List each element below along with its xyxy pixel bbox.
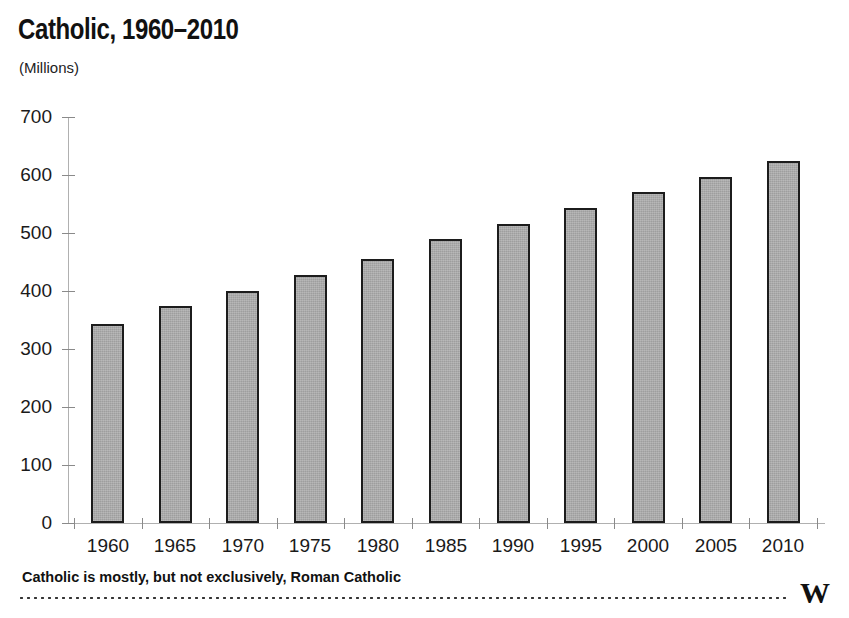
y-axis-line (68, 117, 69, 524)
y-axis-tick-label: 400 (0, 281, 52, 300)
x-axis-tick (277, 518, 278, 529)
publisher-logo: W (800, 578, 830, 608)
x-axis-tick (547, 518, 548, 529)
bar-1980[interactable] (361, 259, 394, 523)
y-axis-tick-label: 200 (0, 397, 52, 416)
bar-2000[interactable] (632, 192, 665, 523)
y-axis-tick-label: 300 (0, 339, 52, 358)
y-axis-tick (62, 175, 75, 176)
x-axis-tick (74, 518, 75, 529)
x-axis-tick (209, 518, 210, 529)
y-axis-tick-label: 600 (0, 165, 52, 184)
x-axis-tick (682, 518, 683, 529)
x-axis-line (68, 523, 825, 524)
bar-1985[interactable] (429, 239, 462, 523)
bar-1970[interactable] (226, 291, 259, 523)
y-axis-tick (62, 407, 75, 408)
y-axis-tick (62, 465, 75, 466)
chart-page: Catholic, 1960–2010 (Millions) 010020030… (0, 0, 849, 618)
footer-dotted-divider (18, 596, 788, 600)
chart-footnote: Catholic is mostly, but not exclusively,… (22, 569, 401, 585)
y-axis-tick (62, 117, 75, 118)
y-axis-tick (62, 291, 75, 292)
bar-1975[interactable] (294, 275, 327, 523)
x-axis-tick (344, 518, 345, 529)
y-axis-tick (62, 233, 75, 234)
x-axis-tick-label: 2010 (743, 536, 823, 557)
x-axis-tick (614, 518, 615, 529)
y-axis-tick (62, 349, 75, 350)
y-axis-tick-label: 500 (0, 223, 52, 242)
bar-chart-plot-area: 0100200300400500600700196019651970197519… (0, 0, 849, 618)
bar-2005[interactable] (699, 177, 732, 523)
y-axis-tick-label: 100 (0, 455, 52, 474)
bar-1960[interactable] (91, 324, 124, 523)
x-axis-tick (479, 518, 480, 529)
y-axis-tick-label: 700 (0, 107, 52, 126)
bar-2010[interactable] (767, 161, 800, 523)
bar-1965[interactable] (159, 306, 192, 523)
y-axis-tick-label: 0 (0, 513, 52, 532)
x-axis-tick (142, 518, 143, 529)
bar-1995[interactable] (564, 208, 597, 523)
bar-1990[interactable] (497, 224, 530, 523)
x-axis-tick (817, 518, 818, 529)
x-axis-tick (412, 518, 413, 529)
x-axis-tick (749, 518, 750, 529)
